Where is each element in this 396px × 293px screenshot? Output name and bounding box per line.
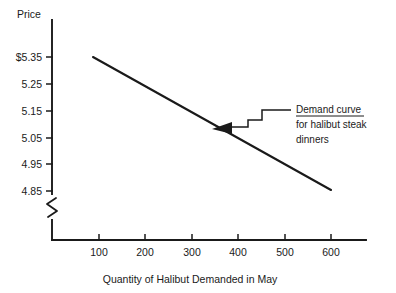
y-tick-label: 5.25 (22, 78, 43, 90)
chart-canvas: $5.35 5.25 5.15 5.05 4.95 4.85 100 200 3… (0, 0, 396, 293)
x-axis-title: Quantity of Halibut Demanded in May (103, 273, 278, 285)
callout-arrowhead-icon (212, 122, 232, 134)
x-tick-label: 500 (276, 246, 294, 258)
callout-line-2: for halibut steak (296, 119, 368, 130)
callout-line-1: Demand curve (296, 104, 361, 115)
y-tick-label: 5.05 (22, 132, 43, 144)
y-tick-label: 4.85 (22, 185, 43, 197)
x-tick-labels: 100 200 300 400 500 600 (90, 246, 340, 258)
y-tick-label: $5.35 (16, 51, 42, 63)
x-tick-label: 300 (183, 246, 201, 258)
callout-line-3: dinners (296, 134, 329, 145)
x-tick-label: 100 (90, 246, 108, 258)
y-tick-label: 4.95 (22, 158, 43, 170)
y-axis (47, 20, 57, 240)
y-axis-break-icon (47, 198, 57, 217)
x-tick-label: 600 (322, 246, 340, 258)
y-axis-title: Price (17, 8, 41, 20)
x-tick-label: 200 (136, 246, 154, 258)
y-tick-label: 5.15 (22, 105, 43, 117)
y-tick-labels: $5.35 5.25 5.15 5.05 4.95 4.85 (16, 51, 42, 197)
callout-pointer-path (230, 110, 291, 127)
demand-curve-callout: Demand curve for halibut steak dinners (296, 104, 368, 145)
demand-curve-chart: $5.35 5.25 5.15 5.05 4.95 4.85 100 200 3… (0, 0, 396, 293)
demand-curve-callout-pointer (212, 110, 291, 134)
x-tick-label: 400 (229, 246, 247, 258)
